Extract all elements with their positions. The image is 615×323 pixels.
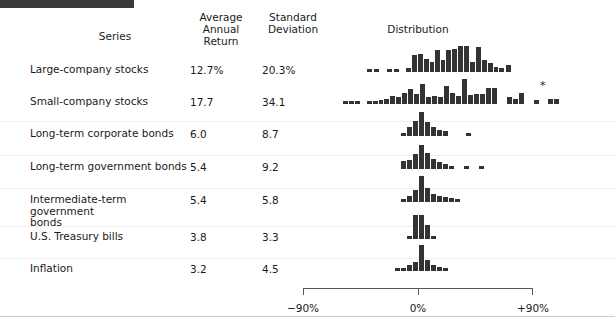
histogram-bar <box>419 176 424 202</box>
axis-label-zero: 0% <box>388 302 448 314</box>
cell-average-annual-return: 6.0 <box>190 128 242 140</box>
column-header-series: Series <box>60 30 170 42</box>
footnote-asterisk: * <box>540 80 546 91</box>
histogram-bar <box>462 79 467 104</box>
top-decorative-rule <box>0 0 134 8</box>
histogram-bar <box>419 145 424 169</box>
histogram-bar <box>407 196 412 202</box>
axis-label-min: −90% <box>273 302 333 314</box>
cell-series-name: Intermediate-term government bonds <box>30 194 190 229</box>
cell-average-annual-return: 5.4 <box>190 161 242 173</box>
histogram-bars <box>303 135 533 169</box>
axis-tick-zero <box>418 288 419 295</box>
histogram-bar <box>419 215 424 239</box>
histogram-bar <box>446 50 451 72</box>
histogram-bars <box>303 70 533 104</box>
cell-average-annual-return: 5.4 <box>190 194 242 206</box>
histogram-bar <box>455 199 460 202</box>
histogram-bar <box>437 267 442 271</box>
histogram-bar <box>413 154 418 169</box>
column-header-distribution: Distribution <box>363 23 473 35</box>
histogram-bar <box>431 265 436 271</box>
histogram-bar <box>413 215 418 239</box>
histogram-bar <box>401 199 406 202</box>
column-header-average-annual-return: Average Annual Return <box>190 11 252 48</box>
histogram-bar <box>464 46 469 72</box>
histogram-bar <box>413 121 418 136</box>
cell-series-name: U.S. Treasury bills <box>30 231 190 243</box>
cell-series-name: Inflation <box>30 263 190 275</box>
histogram-bar <box>476 47 481 72</box>
histogram-bars <box>303 38 533 72</box>
histogram-bar <box>435 50 440 72</box>
histogram-bar <box>534 100 539 104</box>
histogram-bar <box>443 197 448 202</box>
axis-label-max: +90% <box>503 302 563 314</box>
histogram-bar <box>395 268 400 271</box>
histogram-bars <box>303 168 533 202</box>
histogram-bar <box>413 262 418 271</box>
cell-series-name: Small-company stocks <box>30 96 190 108</box>
histogram-bar <box>452 49 457 72</box>
histogram-bar <box>554 99 559 104</box>
distribution-histogram <box>303 168 533 202</box>
bottom-rule <box>0 316 615 317</box>
histogram-bar <box>425 153 430 169</box>
column-header-standard-deviation: Standard Deviation <box>258 11 328 35</box>
distribution-histogram <box>303 205 533 239</box>
axis-tick-min <box>303 288 304 295</box>
histogram-bar <box>419 245 424 271</box>
histogram-bar <box>437 196 442 202</box>
distribution-histogram <box>303 102 533 136</box>
axis-tick-max <box>532 288 533 295</box>
distribution-histogram <box>303 38 533 72</box>
histogram-bar <box>425 188 430 202</box>
histogram-bar <box>458 46 463 72</box>
histogram-bar <box>425 122 430 136</box>
cell-average-annual-return: 3.2 <box>190 263 242 275</box>
histogram-bars <box>303 102 533 136</box>
cell-series-name: Long-term government bonds <box>30 161 190 173</box>
distribution-histogram <box>303 237 533 271</box>
histogram-bar <box>407 265 412 271</box>
cell-series-name: Long-term corporate bonds <box>30 128 190 140</box>
cell-average-annual-return: 12.7% <box>190 64 242 76</box>
cell-series-name: Large-company stocks <box>30 64 190 76</box>
distribution-histogram <box>303 135 533 169</box>
histogram-bar <box>425 260 430 271</box>
histogram-bar <box>548 99 553 104</box>
histogram-bars <box>303 205 533 239</box>
histogram-bar <box>431 194 436 202</box>
histogram-bar <box>401 268 406 271</box>
histogram-bar <box>449 198 454 202</box>
cell-average-annual-return: 3.8 <box>190 231 242 243</box>
distribution-axis <box>303 288 533 298</box>
histogram-bar <box>420 84 425 104</box>
histogram-bar <box>419 112 424 136</box>
histogram-bar <box>413 190 418 202</box>
distribution-histogram <box>303 70 533 104</box>
cell-average-annual-return: 17.7 <box>190 96 242 108</box>
histogram-bar <box>443 268 448 271</box>
histogram-bars <box>303 237 533 271</box>
